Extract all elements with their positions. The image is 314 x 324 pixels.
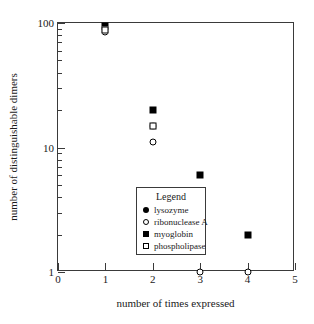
y-tick-minor bbox=[58, 235, 62, 236]
data-point-ribonuclease-a bbox=[244, 269, 251, 276]
x-tick-label: 0 bbox=[55, 274, 61, 285]
y-tick-minor bbox=[58, 153, 62, 154]
y-tick-minor bbox=[58, 60, 62, 61]
x-tick-label: 2 bbox=[150, 274, 156, 285]
y-tick-minor bbox=[58, 197, 62, 198]
legend-item-ribonuclease-a: ribonuclease A bbox=[137, 216, 205, 228]
y-tick-label: 1 bbox=[49, 267, 55, 278]
x-axis-title-label: number of times expressed bbox=[116, 297, 234, 309]
y-tick-minor bbox=[58, 29, 62, 30]
legend-item-label: myoglobin bbox=[154, 229, 193, 239]
legend-item-label: lysozyme bbox=[154, 205, 189, 215]
x-tick-label: 5 bbox=[292, 274, 298, 285]
x-axis-title: number of times expressed bbox=[57, 297, 294, 309]
y-tick-minor bbox=[58, 73, 62, 74]
data-point-phospholipase bbox=[102, 26, 109, 33]
legend-item-label: phospholipase bbox=[154, 241, 206, 251]
x-tick-label: 1 bbox=[103, 274, 109, 285]
legend-box: Legend lysozymeribonuclease Amyoglobinph… bbox=[136, 187, 206, 255]
scatter-plot-figure: number of distinguishable dimers 110100 … bbox=[0, 0, 314, 324]
y-tick-minor bbox=[58, 213, 62, 214]
legend-marker-icon bbox=[141, 219, 151, 225]
y-tick-minor bbox=[58, 175, 62, 176]
y-tick-major bbox=[58, 23, 65, 24]
data-point-myoglobin bbox=[149, 107, 156, 114]
data-point-myoglobin bbox=[197, 172, 204, 179]
y-tick-minor bbox=[58, 185, 62, 186]
y-tick-minor bbox=[58, 51, 62, 52]
y-axis-title-label: number of distinguishable dimers bbox=[7, 73, 19, 221]
x-tick-label: 3 bbox=[197, 274, 203, 285]
plot-area: 110100 012345 Legend lysozymeribonucleas… bbox=[57, 22, 294, 271]
legend-marker-icon bbox=[141, 207, 151, 213]
data-point-ribonuclease-a bbox=[149, 139, 156, 146]
legend-item-lysozyme: lysozyme bbox=[137, 204, 205, 216]
y-tick-label: 10 bbox=[43, 142, 54, 153]
data-point-ribonuclease-a bbox=[197, 269, 204, 276]
x-tick-major bbox=[295, 263, 296, 270]
y-axis-title: number of distinguishable dimers bbox=[6, 22, 20, 271]
y-tick-minor bbox=[58, 35, 62, 36]
y-tick-label: 100 bbox=[38, 18, 55, 29]
legend-title: Legend bbox=[137, 191, 205, 203]
y-tick-minor bbox=[58, 167, 62, 168]
legend-item-label: ribonuclease A bbox=[154, 217, 208, 227]
data-point-phospholipase bbox=[149, 122, 156, 129]
y-tick-minor bbox=[58, 42, 62, 43]
y-tick-minor bbox=[58, 110, 62, 111]
y-tick-minor bbox=[58, 88, 62, 89]
legend-item-myoglobin: myoglobin bbox=[137, 228, 205, 240]
legend-item-phospholipase: phospholipase bbox=[137, 240, 205, 252]
x-tick-label: 4 bbox=[245, 274, 251, 285]
y-tick-minor bbox=[58, 160, 62, 161]
data-point-myoglobin bbox=[244, 231, 251, 238]
y-tick-major bbox=[58, 148, 65, 149]
x-tick-major bbox=[58, 263, 59, 270]
x-tick-major bbox=[153, 263, 154, 270]
x-tick-major bbox=[105, 263, 106, 270]
legend-entries: lysozymeribonuclease Amyoglobinphospholi… bbox=[137, 204, 205, 252]
legend-marker-icon bbox=[141, 231, 151, 237]
legend-marker-icon bbox=[141, 243, 151, 249]
